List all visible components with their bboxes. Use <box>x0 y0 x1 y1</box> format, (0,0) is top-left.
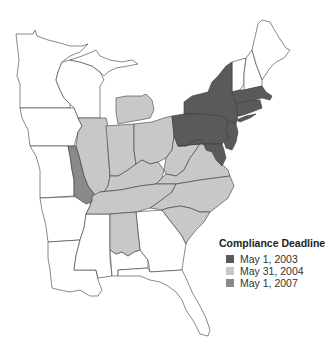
legend-label: May 1, 2007 <box>240 277 298 289</box>
legend-swatch-2003 <box>226 255 234 263</box>
state-iowa <box>20 108 82 146</box>
state-michigan-lower <box>116 94 154 124</box>
legend-label: May 31, 2004 <box>240 265 304 277</box>
state-missouri-west <box>30 146 74 198</box>
state-florida <box>118 268 210 336</box>
legend-title: Compliance Deadline <box>219 237 325 249</box>
legend-item-2007: May 1, 2007 <box>226 277 325 289</box>
legend-item-2004: May 31, 2004 <box>226 265 325 277</box>
legend: Compliance Deadline May 1, 2003 May 31, … <box>219 237 325 289</box>
compliance-map <box>0 0 326 354</box>
legend-label: May 1, 2003 <box>240 253 298 265</box>
legend-swatch-2007 <box>226 279 234 287</box>
legend-swatch-2004 <box>226 267 234 275</box>
state-alabama-north <box>110 212 140 256</box>
legend-item-2003: May 1, 2003 <box>226 253 325 265</box>
